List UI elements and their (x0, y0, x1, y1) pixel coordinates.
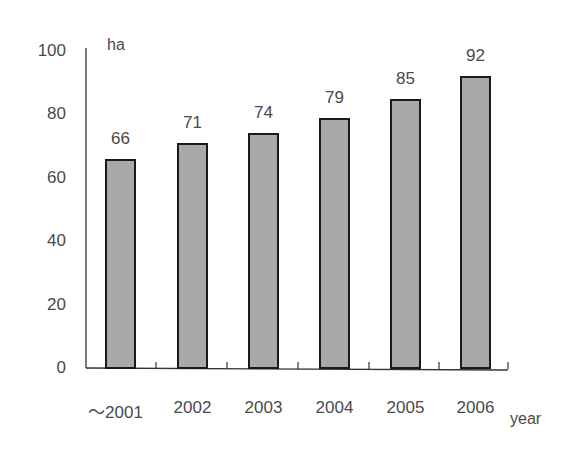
bar (248, 133, 279, 369)
bar-value-label: 85 (381, 69, 431, 89)
bar (460, 76, 491, 369)
y-tick-label: 0 (26, 358, 66, 378)
x-category-label: 2004 (300, 398, 370, 418)
x-axis-unit-label: year (510, 410, 541, 428)
y-axis-unit-label: ha (107, 36, 125, 54)
bar (390, 99, 421, 369)
bar-value-label: 79 (310, 88, 360, 108)
x-category-label: 2002 (158, 398, 228, 418)
y-tick-label: 100 (26, 41, 66, 61)
bar (105, 159, 136, 369)
y-tick-label: 80 (26, 104, 66, 124)
x-category-label: 2005 (371, 398, 441, 418)
bar (319, 118, 350, 369)
x-category-label: 2003 (229, 398, 299, 418)
x-category-label: ～2001 (81, 398, 151, 423)
bar (177, 143, 208, 369)
y-tick-label: 20 (26, 295, 66, 315)
y-tick-label: 60 (26, 168, 66, 188)
bar-chart: 020406080100 ha 66～200171200274200379200… (0, 0, 577, 454)
bar-value-label: 71 (168, 113, 218, 133)
y-tick-label: 40 (26, 231, 66, 251)
x-category-label: 2006 (441, 398, 511, 418)
bar-value-label: 92 (451, 46, 501, 66)
bar-value-label: 74 (239, 103, 289, 123)
bar-value-label: 66 (96, 129, 146, 149)
